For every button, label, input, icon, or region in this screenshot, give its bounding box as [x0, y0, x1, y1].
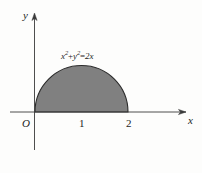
- curve-equation-label: x2+y2=2x: [61, 52, 93, 61]
- equation-right-hand-side: 2x: [85, 51, 93, 61]
- origin-label: O: [22, 118, 30, 129]
- x-axis-label: x: [188, 115, 193, 126]
- coordinate-plane-svg: [0, 0, 202, 173]
- y-axis-label: y: [23, 10, 28, 21]
- semicircle-region: [35, 66, 128, 112]
- math-figure: y x O 1 2 x2+y2=2x: [0, 0, 202, 173]
- x-tick-label-1: 1: [79, 118, 85, 129]
- x-tick-label-2: 2: [126, 118, 132, 129]
